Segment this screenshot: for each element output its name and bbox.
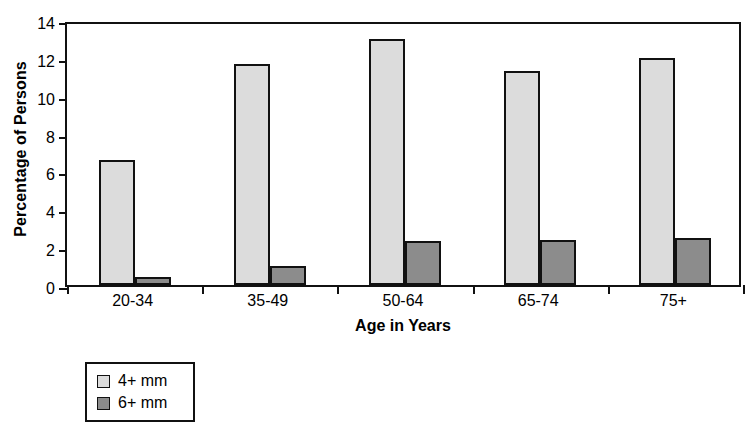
y-axis-tick-mark [59,212,67,214]
x-axis-category-label: 50-64 [383,292,424,310]
x-axis-tick-mark [337,285,339,294]
x-axis-category-label: 75+ [660,292,687,310]
x-axis-tick-mark [67,285,69,294]
legend-label: 4+ mm [118,373,167,389]
bar-35-49-6mm [270,266,306,285]
y-axis-tick-mark [59,99,67,101]
x-axis-category-label: 65-74 [518,292,559,310]
y-axis-tick-label: 14 [37,16,55,32]
legend-label: 6+ mm [118,395,167,411]
legend-item: 6+ mm [97,392,167,414]
y-axis-tick-mark [59,174,67,176]
y-axis-tick-label: 12 [37,54,55,70]
bar-20-34-6mm [135,277,171,285]
y-axis-tick-mark [59,250,67,252]
x-axis-title: Age in Years [65,317,741,335]
y-axis-tick-label: 0 [46,281,55,297]
legend-swatch-dark-icon [97,397,110,410]
y-axis-tick-label: 2 [46,243,55,259]
bar-75plus-4mm [639,58,675,285]
bar-20-34-4mm [99,160,135,285]
y-axis-tick-label: 4 [46,205,55,221]
y-axis-tick-mark [59,61,67,63]
bar-35-49-4mm [234,64,270,285]
y-axis-tick-label: 6 [46,167,55,183]
y-axis-tick-label: 8 [46,130,55,146]
y-axis-tick-label: 10 [37,92,55,108]
legend-swatch-light-icon [97,375,110,388]
x-axis-tick-mark [473,285,475,294]
y-axis-tick-mark [59,137,67,139]
bar-75plus-6mm [675,238,711,285]
x-axis-tick-mark [743,285,745,294]
x-axis-tick-mark [202,285,204,294]
plot-area: 02468101214 [65,22,741,287]
bar-50-64-6mm [405,241,441,285]
x-axis-category-label: 35-49 [247,292,288,310]
chart-legend: 4+ mm 6+ mm [85,362,195,422]
x-axis-tick-mark [608,285,610,294]
x-axis-category-label: 20-34 [112,292,153,310]
legend-item: 4+ mm [97,370,167,392]
bar-65-74-4mm [504,71,540,285]
bar-chart: Percentage of Persons 02468101214 20-343… [0,0,752,435]
bar-65-74-6mm [540,240,576,285]
y-axis-title: Percentage of Persons [12,44,30,254]
bar-50-64-4mm [369,39,405,285]
y-axis-tick-mark [59,288,67,290]
y-axis-tick-mark [59,23,67,25]
